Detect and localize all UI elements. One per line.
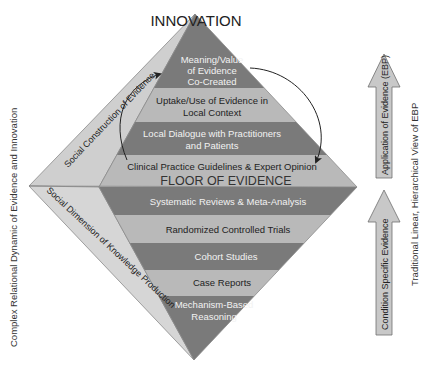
upper-band-3: Clinical Practice Guidelines & Expert Op… [127,161,317,172]
svg-text:of Evidence: of Evidence [187,65,237,76]
svg-text:Reasoning: Reasoning [191,311,236,322]
svg-text:Local Context: Local Context [183,107,241,118]
innovation-title: INNOVATION [150,12,241,29]
left-axis-label: Complex Relational Dynamic of Evidence a… [8,108,19,347]
svg-text:Uptake/Use of Evidence in: Uptake/Use of Evidence in [156,95,268,106]
svg-text:and Patients: and Patients [186,140,239,151]
svg-text:Clinical Practice Guidelines &: Clinical Practice Guidelines & Expert Op… [127,161,317,172]
svg-text:Local Dialogue with Practition: Local Dialogue with Practitioners [143,128,281,139]
svg-text:Condition Specific Evidence: Condition Specific Evidence [380,218,390,330]
right-axis-label: Traditional Linear, Hierarchical View of… [409,103,420,286]
lower-band-1: Randomized Controlled Trials [166,224,291,235]
svg-text:Meaning/Value: Meaning/Value [181,54,244,65]
lower-band-3: Case Reports [193,277,251,288]
upper-band-0: Meaning/Value of Evidence Co-Created [181,54,244,87]
svg-text:Mechanism-Based: Mechanism-Based [175,299,254,310]
application-of-evidence-arrow: Application of Evidence (EBP) [368,54,400,178]
lower-band-0: Systematic Reviews & Meta-Analysis [150,196,307,207]
svg-text:Application of Evidence (EBP): Application of Evidence (EBP) [380,55,390,175]
condition-specific-evidence-arrow: Condition Specific Evidence [368,190,400,335]
floor-of-evidence-label: FLOOR OF EVIDENCE [160,174,291,188]
evidence-innovation-diagram: INNOVATION Meaning/Value of Evidence Co-… [0,0,434,372]
svg-text:Co-Created: Co-Created [187,76,236,87]
lower-band-2: Cohort Studies [195,251,258,262]
